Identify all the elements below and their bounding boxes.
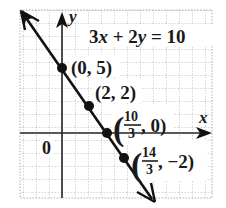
point-2-2	[84, 101, 94, 111]
point-label-0-5: (0, 5)	[71, 57, 112, 79]
point-label-10-3-open-paren: (	[113, 110, 124, 148]
point-label-14-3-rest: , −2)	[158, 151, 194, 173]
point-label-10-3-denominator: 3	[128, 126, 135, 141]
point-14-3-neg2	[119, 153, 129, 163]
point-label-14-3-open-paren: (	[131, 146, 142, 184]
point-label-10-3-numerator: 10	[124, 109, 138, 124]
graph-canvas: y x 0 3x + 2y = 10 (0, 5) (2, 2) ( 10 3 …	[0, 0, 226, 208]
point-label-10-3-rest: , 0)	[141, 115, 166, 137]
point-label-14-3-numerator: 14	[142, 145, 156, 160]
y-axis-label: y	[67, 7, 77, 26]
equation-label: 3x + 2y = 10	[89, 26, 186, 47]
point-label-2-2: (2, 2)	[95, 82, 136, 104]
origin-label: 0	[42, 138, 51, 158]
point-0-5	[57, 63, 67, 73]
point-label-14-3-denominator: 3	[146, 162, 153, 177]
x-axis-label: x	[198, 108, 208, 127]
point-10-3-0	[102, 128, 112, 138]
